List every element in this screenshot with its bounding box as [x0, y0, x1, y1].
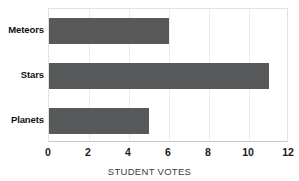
- x-tick-label: 2: [68, 146, 108, 158]
- category-label: Stars: [0, 69, 44, 80]
- x-axis-title: STUDENT VOTES: [0, 166, 299, 177]
- category-label: Meteors: [0, 24, 44, 35]
- x-tick-label: 12: [268, 146, 299, 158]
- x-tick-label: 10: [228, 146, 268, 158]
- bar: [49, 108, 149, 134]
- bar-track: [49, 108, 289, 134]
- bar: [49, 63, 269, 89]
- x-tick-label: 8: [188, 146, 228, 158]
- bar-chart: STUDENT VOTES MeteorsStarsPlanets0246810…: [0, 0, 299, 181]
- category-label: Planets: [0, 114, 44, 125]
- x-tick-label: 0: [28, 146, 68, 158]
- x-tick-label: 4: [108, 146, 148, 158]
- x-tick-label: 6: [148, 146, 188, 158]
- bar-track: [49, 63, 289, 89]
- plot-area: [48, 8, 288, 142]
- bar-track: [49, 18, 289, 44]
- bar: [49, 18, 169, 44]
